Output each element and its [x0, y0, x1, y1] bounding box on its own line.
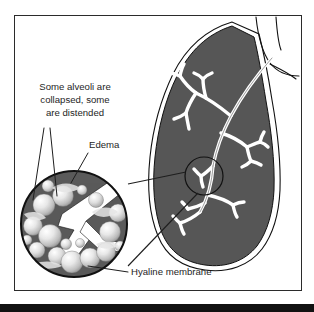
alveoli-callout: Some alveoli are collapsed, some are dis… [39, 81, 110, 118]
alveoli-callout-line-3: are distended [46, 107, 104, 118]
edema-callout-label: Edema [89, 139, 120, 150]
lung-illustration-svg: Some alveoli are collapsed, some are dis… [0, 0, 314, 312]
figure-root: Some alveoli are collapsed, some are dis… [0, 0, 314, 312]
alveoli-callout-line-1: Some alveoli are [39, 81, 110, 92]
lung-silhouette [149, 22, 280, 271]
bottom-bar [0, 304, 314, 312]
alveoli-magnified-inset [21, 166, 141, 277]
hyaline-membrane-callout-label: Hyaline membrane [131, 266, 212, 277]
alveoli-callout-line-2: collapsed, some [40, 94, 109, 105]
